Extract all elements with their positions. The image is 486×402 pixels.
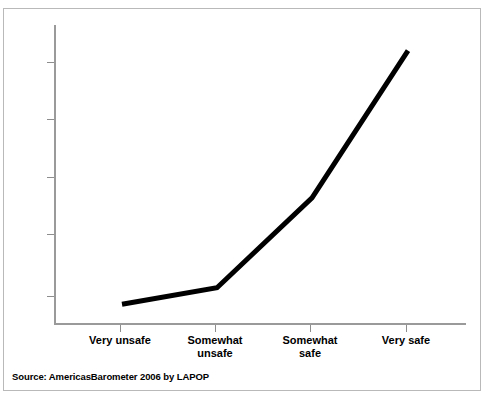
plot-inner [56, 25, 466, 323]
x-tick-mark-somewhat-safe [310, 325, 311, 332]
x-tick-mark-very-safe [406, 325, 407, 332]
y-tick-mark-60 [47, 119, 54, 120]
chart-figure: Support Rule of Law (Scale 0-100) 62 60 … [0, 0, 486, 402]
y-tick-mark-52 [47, 296, 54, 297]
x-tick-mark-very-unsafe [120, 325, 121, 332]
plot-area [54, 25, 466, 325]
line-series [56, 25, 468, 325]
x-tick-label-very-safe-line1: Very safe [341, 334, 471, 347]
x-tick-label-somewhat-safe-line2: safe [245, 347, 375, 360]
y-tick-mark-55 [47, 234, 54, 235]
data-line-support-rule-of-law [122, 51, 408, 305]
x-tick-mark-somewhat-unsafe [215, 325, 216, 332]
x-tick-label-very-safe: Very safe [341, 334, 471, 347]
source-note: Source: AmericasBarometer 2006 by LAPOP [12, 371, 209, 382]
y-tick-mark-58 [47, 177, 54, 178]
y-tick-mark-62 [47, 62, 54, 63]
